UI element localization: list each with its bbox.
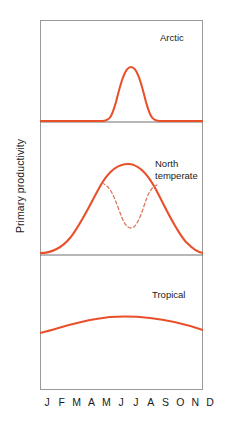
x-axis-tick-labels: JFMAMJJASOND: [40, 396, 217, 412]
x-tick-label: N: [188, 396, 202, 408]
x-tick-label: O: [173, 396, 187, 408]
panel-label-arctic: Arctic: [160, 32, 184, 44]
y-axis-label: Primary productivity: [14, 96, 26, 276]
x-tick-label: M: [70, 396, 84, 408]
plot-curves: [40, 20, 203, 390]
x-tick-label: A: [84, 396, 98, 408]
panel-label-tropical: Tropical: [152, 289, 185, 301]
primary-productivity-figure: Primary productivity Arctic North temper…: [0, 0, 242, 427]
x-tick-label: J: [129, 396, 143, 408]
x-tick-label: A: [144, 396, 158, 408]
curve-north-temperate-dashed: [102, 183, 157, 228]
curve-arctic: [40, 67, 203, 121]
x-tick-label: J: [40, 396, 54, 408]
x-tick-label: M: [99, 396, 113, 408]
x-tick-label: D: [203, 396, 217, 408]
panel-label-north-temperate: North temperate: [155, 158, 198, 181]
curve-tropical: [40, 317, 203, 333]
x-tick-label: F: [55, 396, 69, 408]
x-tick-label: S: [159, 396, 173, 408]
x-tick-label: J: [114, 396, 128, 408]
